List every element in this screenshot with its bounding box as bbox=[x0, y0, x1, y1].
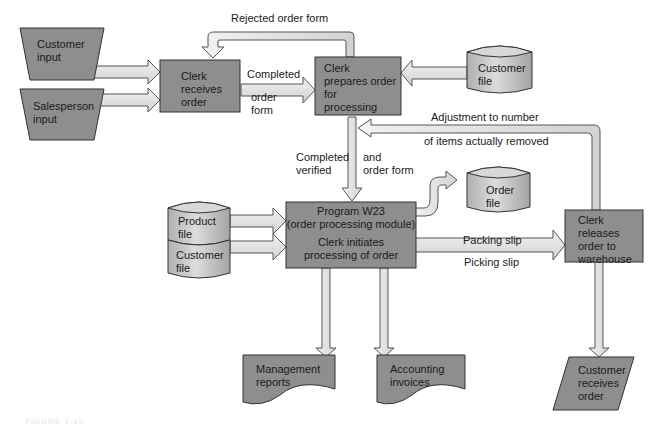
arrow-product-file-to-program bbox=[230, 208, 286, 234]
accounting-invoices-label: Accounting invoices bbox=[390, 363, 444, 389]
arrow-to-order-file bbox=[415, 171, 457, 216]
picking-slip-label: Picking slip bbox=[464, 256, 519, 269]
order-file-label: Order file bbox=[486, 184, 514, 210]
program-w23-subtitle: Clerk initiates processing of order bbox=[286, 236, 416, 262]
adjustment-label-bottom: of items actually removed bbox=[424, 135, 549, 148]
order-form-label: order form bbox=[251, 91, 277, 117]
adjustment-label-top: Adjustment to number bbox=[431, 111, 539, 124]
customer-input-label: Customer input bbox=[37, 38, 85, 64]
clerk-prepares-label: Clerk prepares order for processing bbox=[324, 62, 396, 114]
salesperson-input-label: Salesperson input bbox=[33, 100, 94, 126]
figure-caption: FIGURE 1-10 bbox=[25, 417, 84, 426]
arrow-customer-file-to-program bbox=[230, 234, 286, 260]
packing-slip-label: Packing slip bbox=[463, 234, 522, 247]
customer-file-top-label: Customer file bbox=[478, 62, 526, 88]
management-reports-label: Management reports bbox=[256, 363, 320, 389]
completed-label: Completed bbox=[247, 68, 300, 81]
rejected-order-form-label: Rejected order form bbox=[231, 12, 328, 25]
customer-file-bottom-label: Customer file bbox=[176, 249, 224, 275]
arrow-to-customer-receives bbox=[589, 262, 609, 357]
arrow-to-management-reports bbox=[316, 268, 336, 357]
customer-receives-label: Customer receives order bbox=[578, 364, 626, 403]
arrow-customer-file-to-clerk-prepares bbox=[401, 60, 467, 86]
and-order-form-label: and order form bbox=[363, 151, 414, 177]
arrow-customer-input-to-clerk-receives bbox=[92, 60, 160, 84]
product-file-label: Product file bbox=[178, 215, 216, 241]
program-w23-title: Program W23 (order processing module) bbox=[286, 205, 416, 231]
clerk-releases-label: Clerk releases order to warehouse bbox=[578, 214, 632, 266]
clerk-receives-label: Clerk receives order bbox=[181, 70, 222, 109]
arrow-salesperson-input-to-clerk-receives bbox=[100, 88, 160, 112]
completed-verified-label: Completed verified bbox=[296, 151, 349, 177]
arrow-to-accounting-invoices bbox=[374, 268, 394, 357]
arrow-rejected-order-form bbox=[202, 32, 354, 58]
